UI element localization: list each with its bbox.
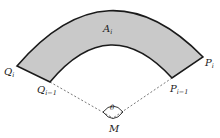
label-center-m: M [108, 123, 120, 134]
right-radius-dashed [113, 78, 172, 118]
label-q-i-minus-1: Qi−1 [37, 84, 57, 97]
label-theta: θ [110, 104, 115, 112]
angle-arc-bottom [103, 112, 123, 119]
label-p-i-minus-1: Pi−1 [169, 83, 188, 96]
diagram-svg: Ai Qi Qi−1 Pi Pi−1 M θ [0, 0, 220, 138]
annular-sector-diagram: Ai Qi Qi−1 Pi Pi−1 M θ [0, 0, 220, 138]
label-q-i: Qi [4, 66, 14, 79]
annular-sector-region [17, 11, 203, 82]
label-p-i: Pi [204, 57, 214, 70]
